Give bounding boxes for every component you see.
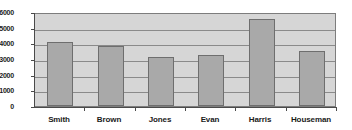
y-axis-tick-mark (31, 76, 35, 77)
y-axis-tick-label: 5000 (0, 25, 14, 32)
bar-chart: 0100020003000400050006000 SmithBrownJone… (0, 0, 352, 130)
x-axis-tick-mark (135, 107, 136, 111)
gridline (35, 45, 335, 46)
gridline (35, 61, 335, 62)
x-axis-tick-label: Houseman (286, 115, 336, 124)
x-axis-tick-mark (84, 107, 85, 111)
y-axis-tick-mark (31, 29, 35, 30)
y-axis-tick-mark (31, 91, 35, 92)
bar (198, 55, 224, 106)
gridline (35, 77, 335, 78)
y-axis-tick-label: 0 (0, 103, 14, 110)
x-axis-tick-label: Brown (84, 115, 134, 124)
gridline (35, 92, 335, 93)
x-axis-tick-mark (235, 107, 236, 111)
y-axis-tick-mark (31, 13, 35, 14)
x-axis-tick-mark (185, 107, 186, 111)
y-axis-tick-label: 6000 (0, 9, 14, 16)
y-axis-tick-label: 3000 (0, 56, 14, 63)
x-axis-tick-label: Smith (34, 115, 84, 124)
bar (299, 51, 325, 106)
x-axis-tick-label: Jones (135, 115, 185, 124)
bar (249, 19, 275, 106)
bar (148, 57, 174, 106)
y-axis-tick-mark (31, 44, 35, 45)
bar (98, 46, 124, 106)
x-axis-tick-label: Evan (185, 115, 235, 124)
x-axis-tick-mark (336, 107, 337, 111)
plot-inner (35, 14, 335, 106)
bar (47, 42, 73, 106)
y-axis-tick-label: 1000 (0, 87, 14, 94)
x-axis-tick-mark (286, 107, 287, 111)
y-axis-tick-label: 4000 (0, 40, 14, 47)
gridline (35, 30, 335, 31)
y-axis-tick-mark (31, 60, 35, 61)
y-axis-tick-mark (31, 107, 35, 108)
y-axis-tick-label: 2000 (0, 72, 14, 79)
plot-area (34, 13, 336, 107)
x-axis-tick-label: Harris (235, 115, 285, 124)
